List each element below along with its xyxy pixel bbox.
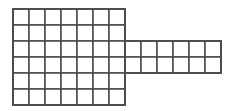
grid-cell [173, 41, 189, 57]
grid-cell [61, 73, 77, 89]
grid-cell [45, 73, 61, 89]
grid-cell [77, 9, 93, 25]
grid-cell [77, 25, 93, 41]
grid-cell [77, 89, 93, 105]
grid-cell [93, 9, 109, 25]
grid-cell [29, 9, 45, 25]
grid-cell [45, 89, 61, 105]
grid-cell [141, 57, 157, 73]
grid-cell [61, 57, 77, 73]
grid-cell [205, 41, 221, 57]
grid-cell [13, 57, 29, 73]
grid-cell [77, 73, 93, 89]
grid-cell [29, 57, 45, 73]
grid-cell [13, 41, 29, 57]
grid-cell [61, 25, 77, 41]
grid-cell [61, 9, 77, 25]
grid-cell [125, 57, 141, 73]
grid-cell [45, 9, 61, 25]
grid-cell [125, 41, 141, 57]
grid-cell [77, 41, 93, 57]
grid-cell [13, 25, 29, 41]
grid-cell [109, 89, 125, 105]
left-block [13, 9, 125, 105]
grid-cell [205, 57, 221, 73]
right-extension [125, 41, 221, 73]
grid-cell [189, 41, 205, 57]
grid-cell [45, 25, 61, 41]
grid-cell [29, 25, 45, 41]
figure-canvas [0, 0, 239, 111]
grid-cell [109, 73, 125, 89]
grid-cell [141, 41, 157, 57]
grid-cell [29, 89, 45, 105]
grid-cell [61, 41, 77, 57]
grid-cell [157, 41, 173, 57]
grid-cell [93, 57, 109, 73]
grid-cell [109, 41, 125, 57]
grid-cell [93, 89, 109, 105]
grid-cell [13, 9, 29, 25]
grid-cell [109, 57, 125, 73]
grid-cell [77, 57, 93, 73]
grid-cell [109, 25, 125, 41]
grid-cell [29, 41, 45, 57]
grid-cell [173, 57, 189, 73]
grid-cell [29, 73, 45, 89]
grid-cell [13, 89, 29, 105]
grid-cell [93, 73, 109, 89]
grid-cell [189, 57, 205, 73]
grid-cell [109, 9, 125, 25]
grid-figure [0, 0, 239, 111]
grid-cell [93, 25, 109, 41]
grid-cell [45, 41, 61, 57]
grid-cell [13, 73, 29, 89]
grid-cell [45, 57, 61, 73]
grid-cell [61, 89, 77, 105]
grid-cell [157, 57, 173, 73]
grid-cell [93, 41, 109, 57]
